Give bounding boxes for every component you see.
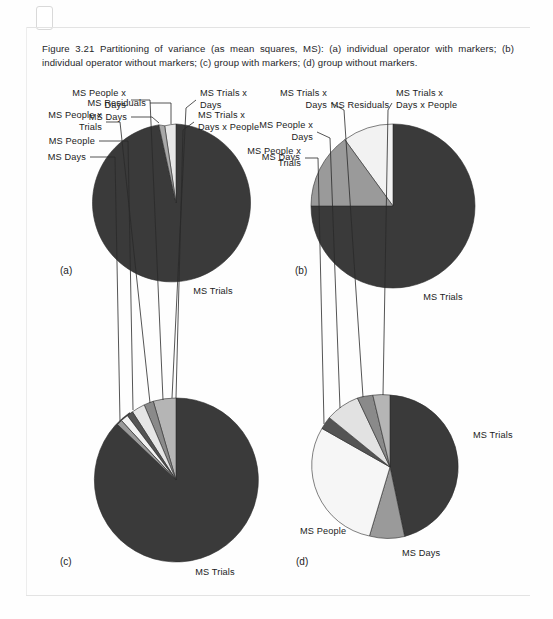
label-c-ms-people-trials-l2: Trials bbox=[79, 122, 102, 132]
leader-a-ms-days bbox=[131, 117, 159, 123]
pie-panel-b: MS Residuals MS Days MS Trials (b) bbox=[262, 100, 475, 302]
label-c-ms-days: MS Days bbox=[48, 152, 87, 162]
label-d-ms-trials-days-people-l1: MS Trials x bbox=[396, 88, 443, 98]
pie-b-slices bbox=[311, 124, 475, 288]
label-c-ms-trials-days-l2: Days bbox=[200, 100, 222, 110]
label-d-ms-people: MS People bbox=[300, 526, 346, 536]
label-d-ms-people-days-l1: MS People x bbox=[259, 120, 313, 130]
label-c-ms-trials-days-l1: MS Trials x bbox=[200, 88, 247, 98]
page-canvas: Figure 3.21 Partitioning of variance (as… bbox=[0, 0, 553, 619]
label-b-ms-residuals: MS Residuals bbox=[331, 100, 390, 110]
label-c-ms-people-days-l1: MS People x bbox=[72, 88, 126, 98]
label-a-ms-trials: MS Trials bbox=[193, 286, 233, 296]
pie-figure-svg: MS Residuals MS Days MS Trials (a) MS Re… bbox=[0, 78, 553, 590]
label-c-ms-people: MS People bbox=[49, 136, 95, 146]
label-d-ms-trials-days-people-l2: Days x People bbox=[396, 100, 457, 110]
label-c-ms-trials: MS Trials bbox=[195, 567, 235, 577]
divider-top bbox=[26, 27, 530, 28]
pie-c-slices bbox=[94, 398, 258, 562]
leader-a-ms-residuals bbox=[150, 103, 171, 124]
label-c-ms-trials-days-people-l2: Days x People bbox=[198, 122, 259, 132]
label-c-ms-people-trials-l1: MS People x bbox=[48, 110, 102, 120]
figure-panels: MS Residuals MS Days MS Trials (a) MS Re… bbox=[0, 78, 553, 590]
label-d-ms-people-trials-l1: MS People x bbox=[247, 146, 301, 156]
panel-letter-a: (a) bbox=[60, 265, 72, 276]
label-d-ms-days: MS Days bbox=[402, 548, 441, 558]
pie-d-slices bbox=[312, 395, 458, 539]
label-d-ms-people-days-l2: Days bbox=[291, 132, 313, 142]
label-d-ms-people-trials-l2: Trials bbox=[278, 158, 301, 168]
label-d-ms-trials: MS Trials bbox=[473, 430, 513, 440]
label-c-ms-trials-days-people-l1: MS Trials x bbox=[198, 110, 245, 120]
panel-letter-b: (b) bbox=[295, 265, 307, 276]
figure-caption: Figure 3.21 Partitioning of variance (as… bbox=[42, 42, 514, 70]
divider-bottom bbox=[26, 595, 530, 596]
label-c-ms-people-days-l2: Days bbox=[104, 100, 126, 110]
label-d-ms-trials-days-l1: MS Trials x bbox=[280, 88, 327, 98]
panel-letter-c: (c) bbox=[60, 556, 72, 567]
label-b-ms-trials: MS Trials bbox=[423, 292, 463, 302]
panel-letter-d: (d) bbox=[296, 556, 308, 567]
label-d-ms-trials-days-l2: Days bbox=[305, 100, 327, 110]
